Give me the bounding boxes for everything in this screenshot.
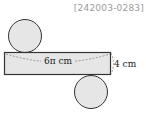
height-label: 4 cm xyxy=(114,59,137,69)
cylinder-net-diagram: 6π cm 4 cm xyxy=(0,0,146,117)
bottom-base-circle xyxy=(75,76,108,109)
width-label: 6π cm xyxy=(44,56,73,66)
top-base-circle xyxy=(9,20,42,53)
